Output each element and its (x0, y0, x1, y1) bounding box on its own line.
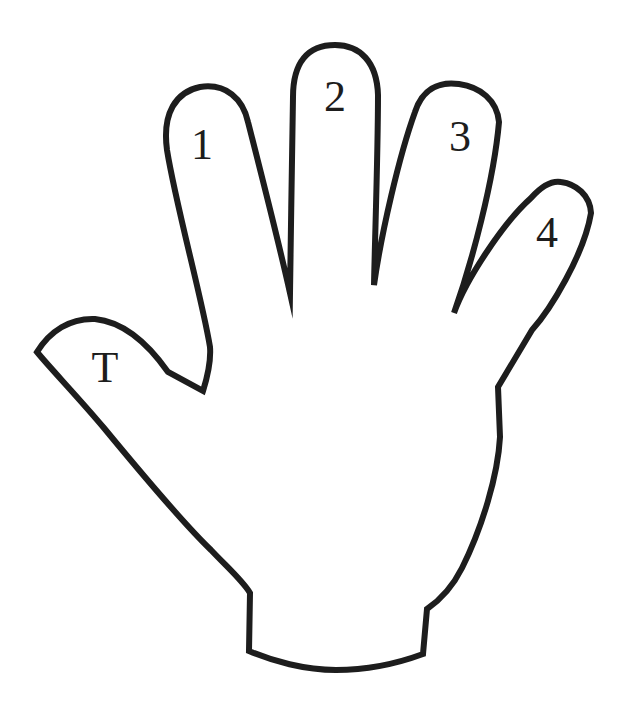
ring-finger-label: 3 (449, 112, 471, 161)
thumb-label: T (92, 343, 119, 392)
index-finger-label: 1 (191, 120, 213, 169)
hand-diagram-canvas: T 1 2 3 4 (0, 0, 628, 715)
little-finger-label: 4 (536, 208, 558, 257)
hand-diagram: T 1 2 3 4 (0, 0, 628, 715)
middle-finger-label: 2 (324, 72, 346, 121)
hand-outline (37, 45, 591, 670)
